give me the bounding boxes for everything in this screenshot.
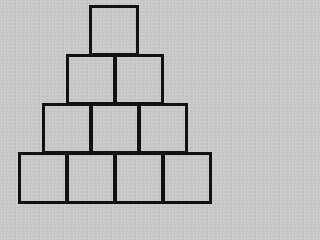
pyramid-square-row2-col2 [114,54,164,105]
pyramid-square-row4-col3 [114,152,164,204]
pyramid-square-row4-col4 [162,152,212,204]
pyramid-square-row4-col1 [18,152,68,204]
pyramid-square-row3-col1 [42,103,92,154]
pyramid-square-row3-col3 [138,103,188,154]
square-pyramid-diagram [0,0,225,216]
pyramid-square-row1-col1 [89,5,139,56]
pyramid-square-row2-col1 [66,54,116,105]
pyramid-square-row4-col2 [66,152,116,204]
pyramid-square-row3-col2 [90,103,140,154]
